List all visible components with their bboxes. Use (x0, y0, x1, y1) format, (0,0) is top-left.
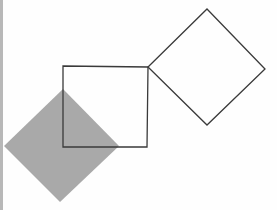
shapes-figure (0, 0, 277, 210)
outline-diamond (148, 9, 265, 125)
diagram-canvas (0, 0, 277, 210)
filled-gray-diamond (4, 89, 119, 202)
